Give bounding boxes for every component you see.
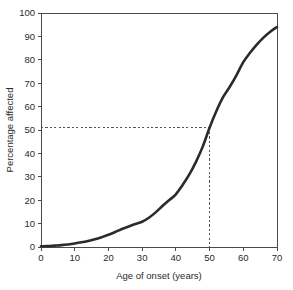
y-tick-label: 30: [24, 171, 35, 182]
plot-area-border: [41, 13, 277, 247]
y-axis-ticks: [38, 13, 42, 247]
sigmoid-line-chart: 0102030405060708090100 010203040506070 A…: [0, 0, 293, 290]
x-tick-label: 30: [137, 252, 148, 263]
y-tick-label: 40: [24, 148, 35, 159]
y-tick-label: 60: [24, 101, 35, 112]
x-axis-tick-labels: 010203040506070: [38, 252, 282, 263]
y-tick-label: 100: [19, 7, 35, 18]
y-tick-label: 70: [24, 78, 35, 89]
y-tick-label: 50: [24, 124, 35, 135]
reference-lines-group: [41, 128, 210, 247]
data-curve-line: [41, 27, 277, 246]
x-tick-label: 40: [171, 252, 182, 263]
data-series-group: [41, 27, 277, 246]
x-tick-label: 20: [103, 252, 114, 263]
x-tick-label: 0: [38, 252, 43, 263]
y-axis-title: Percentage affected: [4, 88, 15, 173]
y-axis-tick-labels: 0102030405060708090100: [19, 7, 35, 252]
x-tick-label: 60: [238, 252, 249, 263]
x-tick-label: 70: [272, 252, 283, 263]
x-axis-ticks: [41, 247, 277, 251]
x-axis-title: Age of onset (years): [116, 270, 202, 281]
x-tick-label: 50: [204, 252, 215, 263]
y-tick-label: 90: [24, 31, 35, 42]
chart-figure: 0102030405060708090100 010203040506070 A…: [0, 0, 293, 290]
y-tick-label: 0: [30, 241, 35, 252]
y-tick-label: 80: [24, 54, 35, 65]
y-tick-label: 20: [24, 195, 35, 206]
x-tick-label: 10: [69, 252, 80, 263]
y-tick-label: 10: [24, 218, 35, 229]
